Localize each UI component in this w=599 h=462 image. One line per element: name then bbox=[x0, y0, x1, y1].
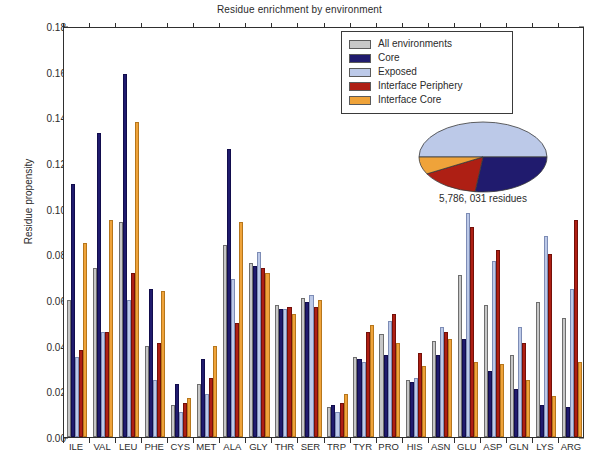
bar bbox=[239, 222, 243, 437]
legend-item-label: Interface Core bbox=[378, 93, 441, 107]
bar bbox=[574, 220, 578, 437]
x-tick-mark bbox=[376, 438, 377, 443]
bar-group bbox=[197, 28, 217, 437]
x-tick-mark bbox=[428, 438, 429, 443]
x-category-label-leu: LEU bbox=[119, 441, 137, 452]
bar-group bbox=[223, 28, 243, 437]
bar bbox=[436, 355, 440, 437]
x-tick-mark bbox=[271, 438, 272, 443]
chart-figure: Residue enrichment by environment Residu… bbox=[0, 0, 599, 462]
bar-group bbox=[249, 28, 269, 437]
inset-pie-chart: 5,786, 031 residues bbox=[418, 121, 548, 211]
bar-group bbox=[119, 28, 139, 437]
bar bbox=[231, 279, 235, 437]
legend-swatch-icon bbox=[349, 40, 371, 49]
bar bbox=[514, 389, 518, 437]
legend-item[interactable]: Core bbox=[349, 51, 505, 65]
bar bbox=[279, 309, 283, 437]
bar bbox=[466, 213, 470, 437]
bar bbox=[578, 362, 582, 437]
x-tick-mark bbox=[532, 438, 533, 443]
bar bbox=[292, 314, 296, 437]
legend-swatch-icon bbox=[349, 96, 371, 105]
bar bbox=[227, 149, 231, 437]
bar bbox=[548, 254, 552, 437]
bar bbox=[135, 122, 139, 437]
legend-swatch-icon bbox=[349, 54, 371, 63]
bar bbox=[492, 261, 496, 437]
bar bbox=[440, 327, 444, 437]
x-category-label-pro: PRO bbox=[378, 441, 399, 452]
x-category-label-glu: GLU bbox=[457, 441, 477, 452]
bar-group bbox=[562, 28, 582, 437]
legend-item[interactable]: Interface Core bbox=[349, 93, 505, 107]
y-axis-label: Residue propensity bbox=[23, 0, 34, 412]
bar bbox=[496, 250, 500, 437]
bar bbox=[388, 321, 392, 437]
bar bbox=[205, 394, 209, 437]
bar bbox=[370, 325, 374, 437]
bar bbox=[362, 362, 366, 437]
x-category-label-gly: GLY bbox=[249, 441, 267, 452]
bar bbox=[331, 405, 335, 437]
bar-group bbox=[93, 28, 113, 437]
x-tick-mark bbox=[402, 438, 403, 443]
legend-item[interactable]: Exposed bbox=[349, 65, 505, 79]
bar bbox=[201, 359, 205, 437]
x-tick-mark bbox=[141, 438, 142, 443]
bar bbox=[522, 343, 526, 437]
bar bbox=[470, 227, 474, 437]
legend-item-label: Core bbox=[378, 51, 400, 65]
x-category-label-trp: TRP bbox=[327, 441, 346, 452]
bar bbox=[261, 268, 265, 437]
chart-legend: All environmentsCoreExposedInterface Per… bbox=[341, 31, 513, 114]
legend-item-label: Exposed bbox=[378, 65, 417, 79]
x-category-label-ala: ALA bbox=[223, 441, 241, 452]
legend-item[interactable]: Interface Periphery bbox=[349, 79, 505, 93]
x-category-label-asn: ASN bbox=[431, 441, 451, 452]
bar bbox=[340, 403, 344, 437]
pie-caption: 5,786, 031 residues bbox=[406, 193, 560, 204]
bar-group bbox=[275, 28, 295, 437]
bar bbox=[161, 291, 165, 437]
legend-item-label: Interface Periphery bbox=[378, 79, 463, 93]
bar bbox=[83, 243, 87, 437]
bar bbox=[309, 295, 313, 437]
bar bbox=[357, 359, 361, 437]
legend-swatch-icon bbox=[349, 68, 371, 77]
x-tick-mark bbox=[219, 438, 220, 443]
bar bbox=[540, 405, 544, 437]
bar bbox=[305, 302, 309, 437]
bar bbox=[235, 323, 239, 437]
x-tick-mark bbox=[506, 438, 507, 443]
bar bbox=[287, 307, 291, 437]
x-category-label-tyr: TYR bbox=[353, 441, 372, 452]
legend-item[interactable]: All environments bbox=[349, 37, 505, 51]
x-tick-mark bbox=[558, 438, 559, 443]
bar bbox=[344, 394, 348, 437]
bar bbox=[314, 307, 318, 437]
chart-title: Residue enrichment by environment bbox=[0, 4, 599, 15]
bar-group bbox=[536, 28, 556, 437]
bar bbox=[157, 343, 161, 437]
bar bbox=[179, 412, 183, 437]
x-tick-mark bbox=[350, 438, 351, 443]
bar bbox=[175, 384, 179, 437]
bar bbox=[149, 289, 153, 437]
bar bbox=[410, 382, 414, 437]
bar bbox=[183, 403, 187, 437]
bar bbox=[500, 364, 504, 437]
bar bbox=[335, 412, 339, 437]
bar bbox=[418, 353, 422, 437]
bar bbox=[396, 343, 400, 437]
bar bbox=[213, 346, 217, 437]
x-category-label-asp: ASP bbox=[483, 441, 502, 452]
bar bbox=[253, 266, 257, 437]
bar bbox=[257, 252, 261, 437]
bar bbox=[526, 380, 530, 437]
bar bbox=[97, 133, 101, 437]
x-tick-mark bbox=[324, 438, 325, 443]
bar bbox=[474, 362, 478, 437]
x-tick-mark bbox=[454, 438, 455, 443]
pie-slice bbox=[419, 122, 547, 157]
